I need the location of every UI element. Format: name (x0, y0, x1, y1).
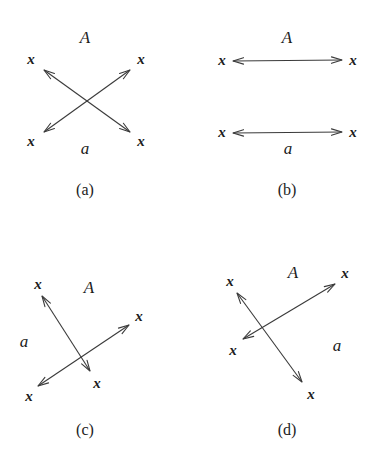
figure-panels-abcd: xxxxAa(a)xxxxAa(b)xxxxAa(c)xxxxAa(d) (0, 0, 370, 471)
panel-d-label-a: a (333, 337, 342, 354)
panel-d-endpoint-label-top-left: x (226, 274, 234, 289)
panel-d-label-A: A (288, 264, 298, 281)
arrow-shaft (243, 284, 335, 339)
panel-d-arrow-shallow (243, 284, 335, 339)
panel-d-caption: (d) (278, 421, 297, 439)
panel-d-arrow-steep (237, 293, 302, 382)
arrowhead-icon (324, 284, 335, 292)
arrowhead-icon (243, 331, 254, 339)
panel-d-endpoint-label-bottom: x (307, 387, 315, 402)
panel-d-endpoint-label-top-right: x (341, 266, 349, 281)
arrow-shaft (237, 293, 302, 382)
panel-d-endpoint-label-left: x (229, 343, 237, 358)
